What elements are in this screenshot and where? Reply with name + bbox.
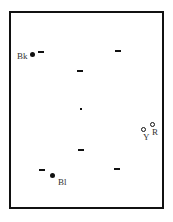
spot-marker-center (80, 108, 82, 110)
blue-ball-label: Bl (58, 178, 67, 187)
blue-ball (50, 173, 55, 178)
yellow-ball-label: Y (143, 133, 150, 142)
table-frame (9, 11, 164, 209)
spot-marker-upper-center (77, 70, 83, 72)
red-ball-label: R (152, 128, 158, 137)
spot-marker-lower-right (114, 168, 120, 170)
black-ball (30, 52, 35, 57)
spot-marker-upper-right (115, 50, 121, 52)
spot-marker-lower-center (78, 149, 84, 151)
spot-marker-upper-left (38, 51, 44, 53)
black-ball-label: Bk (17, 52, 28, 61)
spot-marker-lower-left (39, 169, 45, 171)
